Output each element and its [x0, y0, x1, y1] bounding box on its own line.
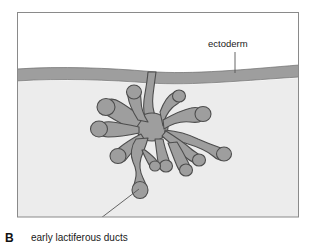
ectoderm-label: ectoderm: [208, 38, 248, 49]
duct-tip-upper-left: [97, 99, 115, 116]
figure-caption: early lactiferous ducts: [31, 232, 128, 243]
duct-tip-bottom-main: [132, 182, 148, 199]
duct-tip-lower-left: [110, 149, 126, 164]
duct-tip-mid-nub: [150, 161, 161, 171]
panel-letter: B: [5, 231, 14, 245]
duct-tip-right-mid: [217, 147, 232, 161]
breast-development-diagram: ectoderm B early lactiferous ducts: [0, 0, 312, 246]
duct-tip-upper-left-2: [127, 85, 142, 99]
duct-tip-left: [91, 121, 108, 137]
duct-tip-right-lower: [193, 154, 206, 166]
duct-tip-bottom-right: [180, 164, 193, 176]
duct-tip-right-upper: [195, 107, 211, 122]
figure-panel-b: ectoderm B early lactiferous ducts: [0, 0, 312, 246]
duct-tip-center-bottom: [160, 160, 173, 172]
duct-tip-upper-right: [173, 90, 186, 102]
